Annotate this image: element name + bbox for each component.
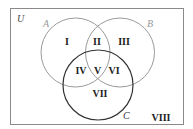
region-2: II — [93, 36, 101, 47]
region-6: VI — [108, 65, 119, 76]
set-c-label: C — [123, 110, 130, 121]
region-3: III — [118, 36, 130, 47]
circle-a — [41, 18, 110, 87]
universe-label: U — [17, 13, 25, 24]
venn-diagram: U A B C I II III IV V VI VII VIII — [0, 0, 193, 129]
region-4: IV — [75, 65, 87, 76]
set-b-label: B — [147, 18, 153, 29]
region-8: VIII — [152, 112, 171, 123]
region-7: VII — [92, 88, 107, 99]
set-a-label: A — [42, 18, 50, 29]
region-5: V — [94, 65, 102, 76]
circle-b — [86, 18, 155, 87]
region-1: I — [65, 36, 69, 47]
